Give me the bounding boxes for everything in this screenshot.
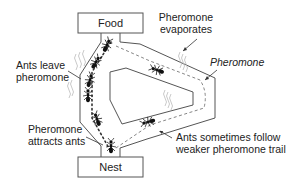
svg-text:Pheromone: Pheromone [28, 123, 82, 135]
annotation-pheromone: Pheromone [205, 56, 264, 80]
nest-label: Nest [99, 161, 122, 173]
food-label: Food [98, 17, 123, 29]
ant-icon [148, 63, 166, 78]
pheromone-diagram: Food Nest [0, 0, 298, 187]
ant-icon [83, 71, 97, 88]
ants [83, 36, 166, 154]
svg-text:Pheromone: Pheromone [159, 11, 213, 23]
annotation-sometimes: Ants sometimes follow weaker pheromone t… [159, 131, 286, 155]
svg-text:attracts ants: attracts ants [28, 135, 85, 147]
svg-text:weaker pheromone trail: weaker pheromone trail [175, 143, 286, 155]
ant-icon [139, 115, 156, 129]
svg-text:evaporates: evaporates [160, 23, 212, 35]
svg-text:Pheromone: Pheromone [210, 56, 264, 68]
annotation-evaporates: Pheromone evaporates [159, 11, 213, 51]
svg-text:Ants leave: Ants leave [16, 59, 65, 71]
annotation-ants-leave: Ants leave pheromone [16, 59, 81, 83]
ant-icon [88, 53, 104, 71]
nest-node: Nest [78, 157, 143, 177]
food-node: Food [78, 13, 143, 33]
svg-text:pheromone: pheromone [16, 71, 69, 83]
svg-text:Ants sometimes follow: Ants sometimes follow [176, 131, 281, 143]
ant-icon [99, 36, 115, 54]
strong-pheromone-trail [92, 42, 111, 150]
